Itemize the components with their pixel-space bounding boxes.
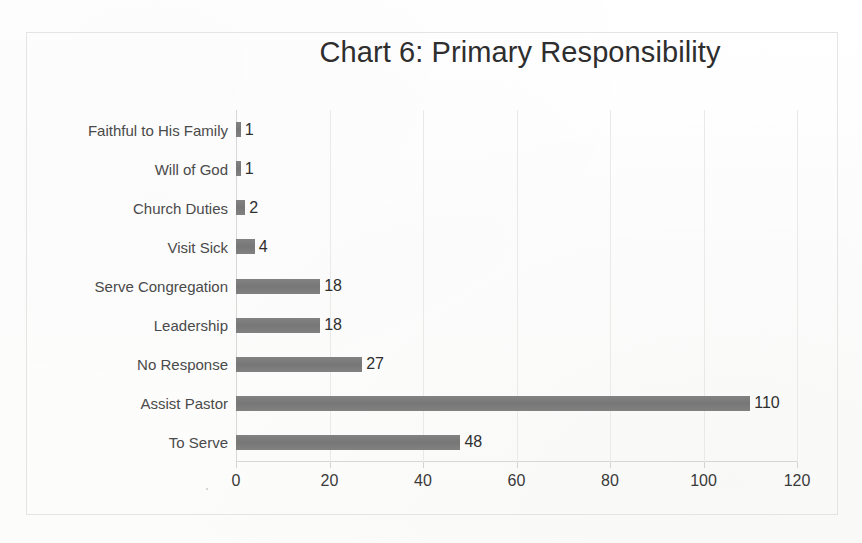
x-tick-mark	[423, 462, 424, 468]
category-label: No Response	[18, 357, 228, 372]
chart-title: Chart 6: Primary Responsibility	[240, 36, 800, 69]
x-tick-mark	[610, 462, 611, 468]
bar-row: 18	[236, 277, 797, 295]
bar-row: 18	[236, 316, 797, 334]
bar-row: 48	[236, 433, 797, 451]
bar-value-label: 48	[464, 434, 482, 450]
bar	[236, 122, 241, 137]
scan-speck	[206, 488, 208, 490]
bar	[236, 435, 460, 450]
bar-row: 4	[236, 238, 797, 256]
x-tick-mark	[236, 462, 237, 468]
category-label: Visit Sick	[18, 240, 228, 255]
category-label: Faithful to His Family	[18, 123, 228, 138]
chart-screenshot: Chart 6: Primary Responsibility Faithful…	[0, 0, 862, 543]
category-label: To Serve	[18, 435, 228, 450]
plot-area: 112418182711048	[236, 110, 797, 462]
x-tick-label: 0	[232, 472, 241, 490]
bar-row: 1	[236, 160, 797, 178]
x-axis-tick-labels: 020406080100120	[236, 472, 797, 498]
bar-row: 27	[236, 355, 797, 373]
bar	[236, 357, 362, 372]
bar	[236, 200, 245, 215]
x-tick-label: 120	[784, 472, 811, 490]
x-tick-mark	[797, 462, 798, 468]
bar	[236, 396, 750, 411]
category-label: Assist Pastor	[18, 396, 228, 411]
category-label: Church Duties	[18, 201, 228, 216]
x-axis-ticks	[236, 462, 797, 470]
bar-row: 1	[236, 121, 797, 139]
bar-value-label: 1	[245, 161, 254, 177]
x-tick-mark	[330, 462, 331, 468]
bar	[236, 318, 320, 333]
bar-value-label: 2	[249, 200, 258, 216]
bar-value-label: 4	[259, 239, 268, 255]
category-axis-labels: Faithful to His FamilyWill of GodChurch …	[16, 110, 228, 462]
gridline	[797, 110, 798, 462]
x-tick-label: 80	[601, 472, 619, 490]
x-tick-mark	[704, 462, 705, 468]
category-label: Will of God	[18, 162, 228, 177]
category-label: Serve Congregation	[18, 279, 228, 294]
bar	[236, 161, 241, 176]
bar-value-label: 27	[366, 356, 384, 372]
bar-value-label: 110	[754, 395, 780, 411]
x-tick-label: 60	[508, 472, 526, 490]
x-tick-label: 20	[321, 472, 339, 490]
bar-row: 2	[236, 199, 797, 217]
x-tick-mark	[517, 462, 518, 468]
x-tick-label: 100	[690, 472, 717, 490]
bar-row: 110	[236, 394, 797, 412]
category-label: Leadership	[18, 318, 228, 333]
bar-value-label: 18	[324, 317, 342, 333]
x-tick-label: 40	[414, 472, 432, 490]
bar	[236, 239, 255, 254]
bar-value-label: 1	[245, 122, 254, 138]
bar-value-label: 18	[324, 278, 342, 294]
bar	[236, 279, 320, 294]
